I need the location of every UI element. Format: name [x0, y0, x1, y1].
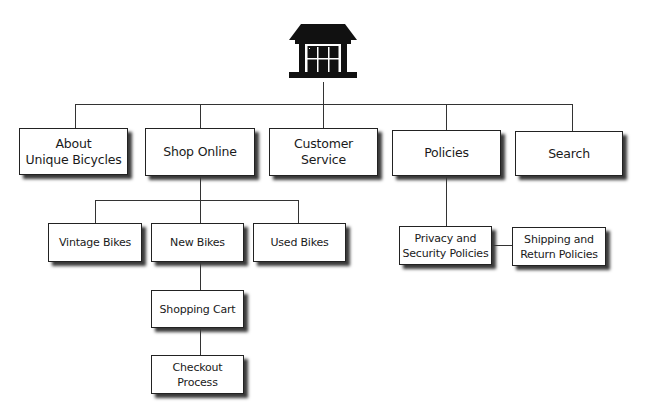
node-about[interactable]: AboutUnique Bicycles — [19, 128, 128, 175]
node-label: Shop Online — [163, 144, 237, 160]
node-customer-service[interactable]: CustomerService — [269, 128, 378, 176]
node-label: Checkout — [173, 360, 223, 375]
connector-new-to-cart — [200, 262, 201, 290]
node-label: Used Bikes — [270, 235, 328, 250]
node-shopping-cart[interactable]: Shopping Cart — [151, 290, 244, 328]
connector-search — [572, 104, 573, 131]
node-label: Process — [173, 375, 223, 390]
node-label: Policies — [424, 145, 469, 161]
connector-about — [75, 104, 76, 128]
node-label: Vintage Bikes — [59, 235, 131, 250]
node-label: Search — [548, 146, 590, 162]
node-checkout-process[interactable]: CheckoutProcess — [151, 355, 244, 394]
node-label: Privacy and — [403, 231, 489, 246]
node-label: About — [26, 136, 122, 152]
connector-shop-bus — [95, 200, 299, 201]
node-shop-online[interactable]: Shop Online — [145, 128, 255, 176]
connector-vintage — [95, 200, 96, 223]
node-label: Security Policies — [403, 246, 489, 261]
node-label: Service — [294, 152, 353, 168]
connector-level1-bus — [75, 104, 573, 105]
node-label: Unique Bicycles — [26, 152, 122, 168]
node-label: Shopping Cart — [160, 302, 236, 317]
connector-privacy-shipping — [492, 245, 514, 246]
node-policies[interactable]: Policies — [392, 130, 501, 176]
node-label: New Bikes — [170, 235, 225, 250]
node-used-bikes[interactable]: Used Bikes — [253, 223, 346, 262]
connector-cart-to-checkout — [200, 328, 201, 355]
node-search[interactable]: Search — [515, 131, 623, 176]
connector-policies-down — [446, 176, 447, 226]
node-label: Customer — [294, 136, 353, 152]
node-privacy-security-policies[interactable]: Privacy andSecurity Policies — [399, 226, 492, 265]
node-label: Shipping and — [520, 232, 598, 247]
connector-policies — [446, 104, 447, 130]
node-vintage-bikes[interactable]: Vintage Bikes — [48, 223, 142, 262]
building-home-icon — [287, 22, 359, 82]
node-new-bikes[interactable]: New Bikes — [151, 223, 244, 262]
connector-used — [298, 200, 299, 223]
connector-shop-online — [200, 104, 201, 128]
node-label: Return Policies — [520, 247, 598, 262]
connector-customer-service — [323, 104, 324, 128]
connector-root-down — [323, 82, 324, 104]
node-shipping-return-policies[interactable]: Shipping andReturn Policies — [512, 227, 606, 266]
